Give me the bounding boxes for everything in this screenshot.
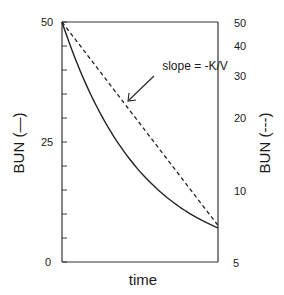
slope-annotation: slope = -K/V <box>162 59 228 73</box>
y-axis-title-right: BUN (---) <box>256 113 273 174</box>
bun-log-dashed-line <box>62 22 218 226</box>
right-tick-20: 20 <box>234 112 246 124</box>
x-axis-title: time <box>129 271 157 288</box>
plot-frame <box>62 22 218 262</box>
right-tick-5: 5 <box>233 257 239 269</box>
bun-chart: 50 25 0 50 40 30 20 10 5 BUN (—) BUN (--… <box>0 0 284 295</box>
right-tick-30: 30 <box>234 70 246 82</box>
left-tick-0: 0 <box>45 256 51 268</box>
right-tick-50: 50 <box>234 17 246 29</box>
left-axis-ticks <box>62 22 67 262</box>
left-tick-25: 25 <box>41 136 53 148</box>
right-tick-40: 40 <box>234 40 246 52</box>
right-tick-10: 10 <box>234 185 246 197</box>
y-axis-title-left: BUN (—) <box>10 113 27 174</box>
left-tick-50: 50 <box>41 16 53 28</box>
annotation-arrow-icon <box>128 76 154 101</box>
